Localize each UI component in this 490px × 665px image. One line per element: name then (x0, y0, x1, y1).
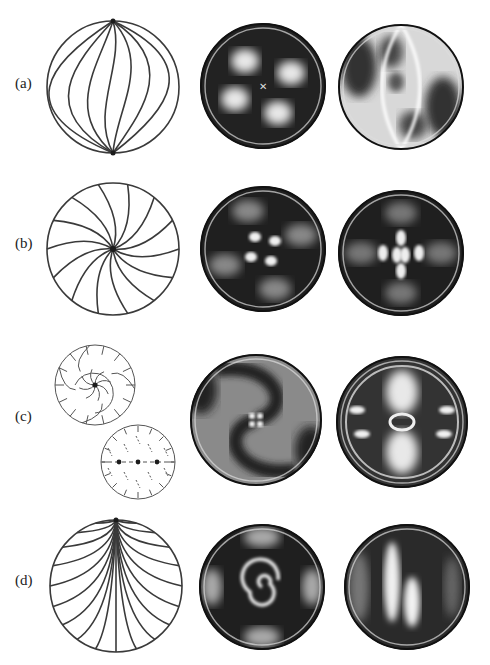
outer-tick-line (86, 415, 88, 424)
lower-tick-line (105, 473, 111, 475)
spiral-director-line (47, 241, 113, 249)
center-defect (110, 246, 116, 252)
schematic-c (55, 345, 175, 499)
spiral-director-line (113, 249, 179, 257)
director-dash (124, 472, 128, 480)
figure: (a) (b) (c) (d) ✕ (0, 0, 490, 665)
director-dash (148, 444, 152, 452)
lower-tick-line (149, 490, 151, 496)
figure-artwork: ✕ (0, 0, 490, 665)
pole-defect-top (111, 19, 116, 24)
outer-tick-line (70, 409, 76, 416)
meridian-line (113, 21, 150, 153)
lower-tick-line (149, 429, 151, 435)
point-defect (155, 460, 160, 465)
outer-tick-line (123, 368, 131, 372)
lower-tick-line (159, 437, 163, 441)
photo-c-left (185, 354, 327, 486)
director-dash (108, 448, 112, 456)
schematic-a-outline (47, 21, 179, 153)
lower-tick-line (124, 429, 126, 435)
connecting-curve (59, 367, 75, 389)
connecting-curve (78, 345, 89, 371)
schematic-a (47, 19, 179, 156)
outer-tick-line (114, 409, 120, 416)
connecting-curve (112, 373, 135, 389)
schematic-b (47, 183, 179, 315)
boojum-defect (114, 518, 119, 523)
director-dash (136, 436, 140, 444)
director-dash (148, 472, 152, 480)
outer-tick-line (70, 354, 76, 361)
pole-defect-bottom (111, 151, 116, 156)
director-dash (164, 448, 168, 456)
lower-tick-line (113, 483, 117, 487)
lower-tick-line (159, 483, 163, 487)
point-defect (136, 460, 141, 465)
spiral-director-line (110, 249, 127, 313)
boojum-director-line (116, 520, 169, 547)
director-dash (108, 468, 112, 476)
outer-tick-line (123, 398, 131, 402)
director-dash (136, 480, 140, 488)
outer-tick-line (102, 415, 104, 424)
spiral-director-line (98, 185, 115, 249)
boojum-director-line (63, 520, 116, 547)
outer-tick-line (59, 398, 67, 402)
outer-tick-line (102, 346, 104, 355)
outer-tick-line (114, 354, 120, 361)
schematic-d (50, 518, 182, 653)
connecting-curve (82, 404, 102, 423)
meridian-line (49, 21, 113, 153)
point-defect (117, 460, 122, 465)
director-dash (164, 468, 168, 476)
upper-center-defect (92, 382, 97, 387)
lower-tick-line (113, 437, 117, 441)
director-dash (124, 444, 128, 452)
lower-tick-line (166, 473, 172, 475)
lower-tick-line (124, 490, 126, 496)
meridian-line (105, 21, 116, 153)
lower-tick-line (105, 448, 111, 450)
lower-tick-line (166, 448, 172, 450)
